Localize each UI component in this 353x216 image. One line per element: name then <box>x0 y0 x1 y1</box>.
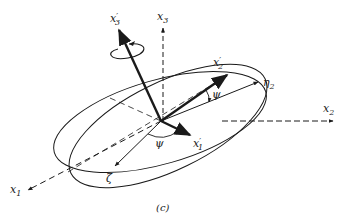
label-x3: x3 <box>157 10 168 25</box>
label-zeta: ζ <box>106 172 113 185</box>
label-x1: x1 <box>10 183 21 198</box>
psi-angle-arc-upper <box>206 90 209 102</box>
label-x2: x2 <box>323 102 334 117</box>
x1-axis <box>28 121 161 190</box>
dashed-plane-line <box>110 98 161 121</box>
x3-prime-axis <box>119 30 161 121</box>
diagram-svg: x′3 x3 x′2 η2 x2 x′1 ζ x1 ψ ψ (c) <box>0 0 353 216</box>
label-psi-lower: ψ <box>155 137 164 150</box>
label-psi-upper: ψ <box>212 88 221 101</box>
label-x1-prime: x′1 <box>193 136 203 152</box>
label-x2-prime: x′2 <box>213 55 223 71</box>
reference-plane-ellipse <box>52 39 285 213</box>
euler-angle-diagram: x′3 x3 x′2 η2 x2 x′1 ζ x1 ψ ψ (c) <box>0 0 353 216</box>
figure-caption: (c) <box>156 202 170 213</box>
label-x3-prime: x′3 <box>110 11 120 27</box>
label-eta2: η2 <box>263 76 275 91</box>
